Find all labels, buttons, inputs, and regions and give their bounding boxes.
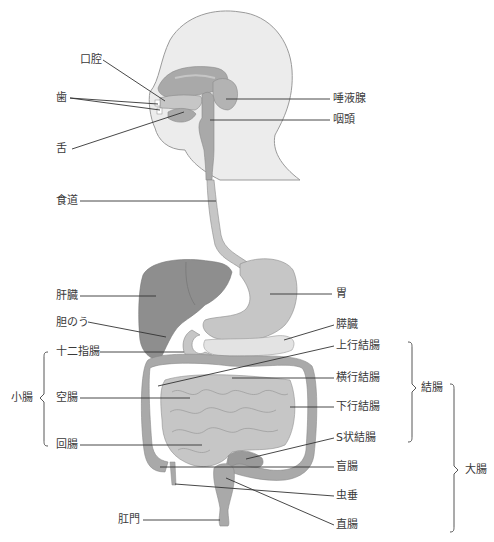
label-esophagus: 食道 bbox=[56, 194, 78, 207]
label-large-intestine-group: 大腸 bbox=[465, 463, 487, 476]
label-sigmoid-colon: S状結腸 bbox=[336, 431, 376, 444]
label-cecum: 盲腸 bbox=[336, 460, 358, 473]
label-pharynx: 咽頭 bbox=[333, 113, 355, 126]
label-descending-colon: 下行結腸 bbox=[336, 400, 380, 413]
label-appendix: 虫垂 bbox=[336, 489, 358, 502]
label-teeth: 歯 bbox=[56, 91, 67, 104]
label-salivary-gland: 唾液腺 bbox=[333, 92, 366, 105]
label-jejunum: 空腸 bbox=[56, 391, 78, 404]
label-duodenum: 十二指腸 bbox=[56, 345, 100, 358]
label-pancreas: 膵臓 bbox=[336, 318, 358, 331]
label-stomach: 胃 bbox=[336, 287, 347, 300]
label-ascending-colon: 上行結腸 bbox=[336, 339, 380, 352]
appendix bbox=[170, 462, 176, 485]
label-tongue: 舌 bbox=[56, 142, 67, 155]
label-oral-cavity: 口腔 bbox=[80, 53, 102, 66]
label-gallbladder: 胆のう bbox=[56, 316, 89, 329]
label-transverse-colon: 横行結腸 bbox=[336, 371, 380, 384]
head bbox=[149, 11, 300, 180]
label-rectum: 直腸 bbox=[336, 518, 358, 531]
small-intestine bbox=[161, 375, 295, 467]
label-colon-group: 結腸 bbox=[421, 381, 443, 394]
digestive-system-illustration bbox=[0, 0, 494, 542]
esophagus bbox=[207, 180, 250, 268]
label-small-intestine-group: 小腸 bbox=[11, 391, 33, 404]
label-ileum: 回腸 bbox=[56, 438, 78, 451]
rectum bbox=[214, 464, 235, 526]
label-liver: 肝臓 bbox=[56, 289, 78, 302]
label-anus: 肛門 bbox=[118, 513, 140, 526]
